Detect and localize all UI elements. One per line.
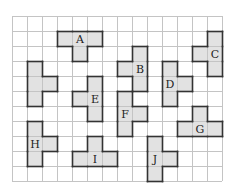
piece-cell	[162, 61, 177, 76]
piece-cell	[72, 46, 87, 61]
piece-cell	[132, 106, 147, 121]
piece-cell	[147, 136, 162, 151]
piece-cell	[27, 61, 42, 76]
piece-label-i: I	[93, 153, 97, 166]
piece-label-g: G	[196, 123, 205, 136]
piece-label-j: J	[152, 153, 157, 166]
piece-cell	[87, 31, 102, 46]
piece-cell	[102, 151, 117, 166]
piece-label-d: D	[166, 78, 175, 91]
piece-cell	[192, 106, 207, 121]
piece-cell	[177, 121, 192, 136]
piece-label-e: E	[91, 93, 99, 106]
piece-cell	[87, 106, 102, 121]
piece-cell	[72, 151, 87, 166]
piece-cell	[207, 31, 222, 46]
piece-cell	[87, 136, 102, 151]
piece-cell	[117, 91, 132, 106]
piece-cell	[207, 61, 222, 76]
piece-cell	[42, 76, 57, 91]
piece-label-b: B	[136, 63, 144, 76]
piece-label-c: C	[211, 48, 219, 61]
piece-cell	[27, 91, 42, 106]
piece-cell	[27, 121, 42, 136]
piece-cell	[57, 31, 72, 46]
piece-cell	[72, 91, 87, 106]
piece-cell	[117, 61, 132, 76]
piece-cell	[132, 46, 147, 61]
piece-label-a: A	[75, 33, 85, 46]
piece-cell	[162, 151, 177, 166]
piece-cell	[87, 76, 102, 91]
piece-cell	[207, 121, 222, 136]
piece-cell	[177, 76, 192, 91]
piece-cell	[117, 121, 132, 136]
pentomino-grid-diagram: ABCDEFGHIJ	[0, 0, 241, 192]
piece-cell	[42, 136, 57, 151]
piece-cell	[147, 166, 162, 181]
piece-cell	[192, 46, 207, 61]
piece-label-h: H	[30, 138, 40, 151]
piece-cell	[27, 151, 42, 166]
piece-label-f: F	[121, 108, 129, 121]
piece-cell	[27, 76, 42, 91]
piece-cell	[132, 76, 147, 91]
piece-cell	[162, 91, 177, 106]
